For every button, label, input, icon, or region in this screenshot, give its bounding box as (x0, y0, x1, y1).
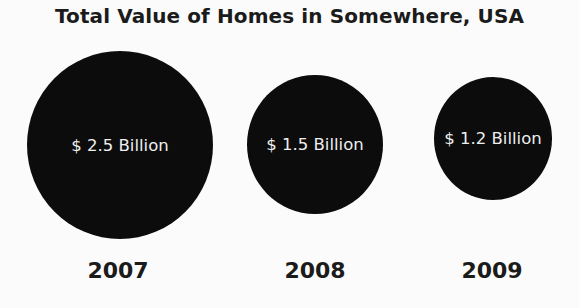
bubble-label-2009: $ 1.2 Billion (444, 129, 541, 148)
chart-title: Total Value of Homes in Somewhere, USA (0, 4, 579, 28)
bubble-2007: $ 2.5 Billion (27, 51, 213, 239)
bubble-label-2007: $ 2.5 Billion (71, 136, 168, 155)
year-label-2009: 2009 (422, 258, 562, 283)
bubble-2008: $ 1.5 Billion (247, 75, 383, 214)
year-label-2008: 2008 (245, 258, 385, 283)
year-label-2007: 2007 (48, 258, 188, 283)
bubble-2009: $ 1.2 Billion (434, 77, 552, 200)
bubble-label-2008: $ 1.5 Billion (266, 135, 363, 154)
